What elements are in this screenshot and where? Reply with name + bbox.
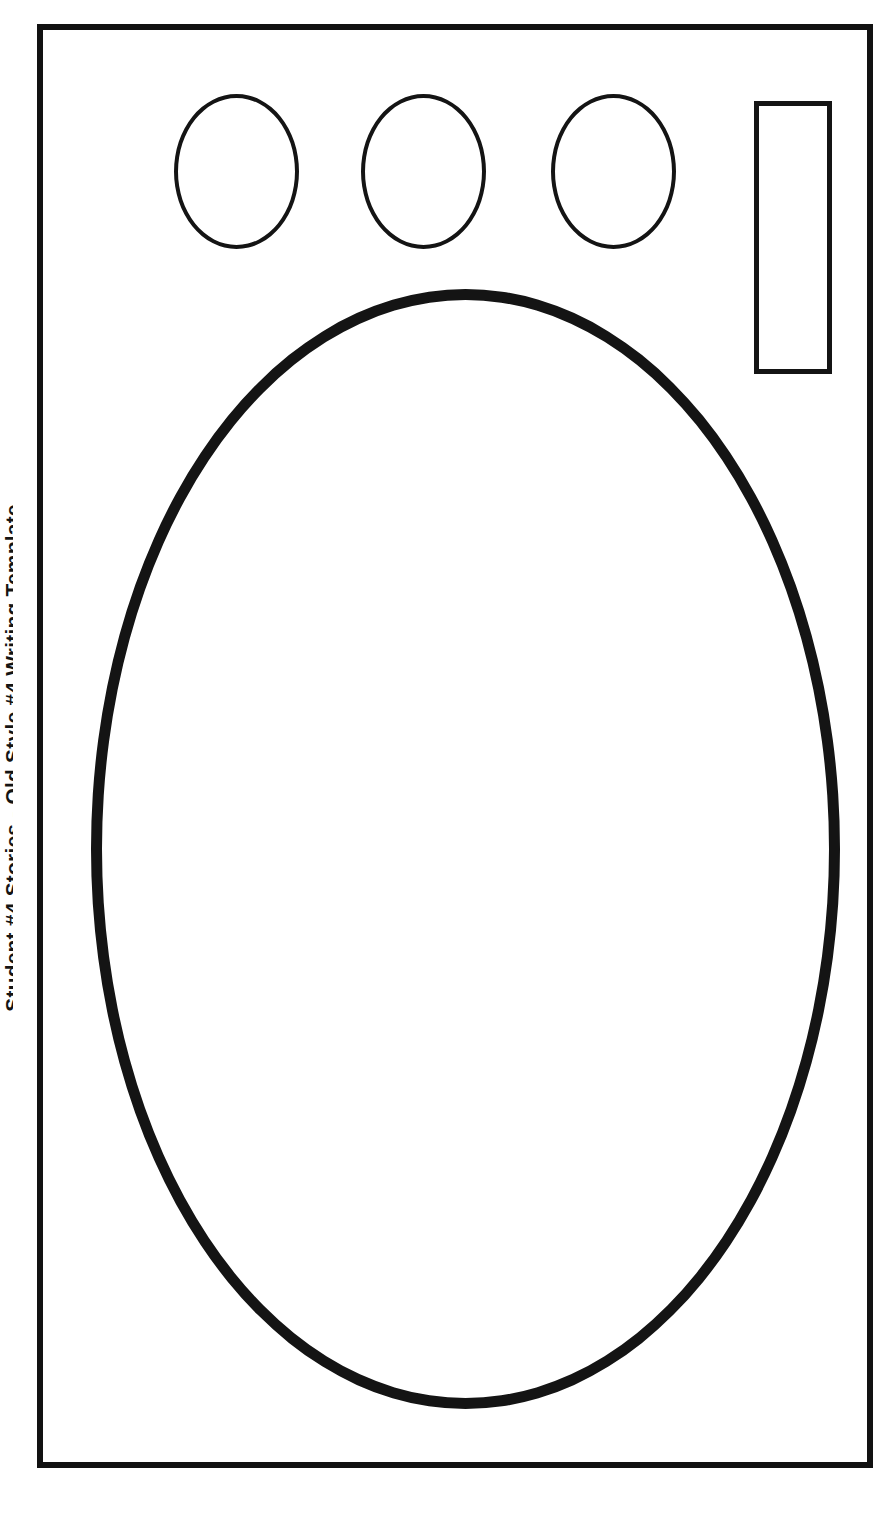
page-title-caption: Student #4 Stories - Old Style #4 Writin… xyxy=(0,1,13,1515)
small-ellipse-2[interactable] xyxy=(361,94,486,249)
writing-template-page: Student #4 Stories - Old Style #4 Writin… xyxy=(0,0,884,1515)
page-border xyxy=(37,24,873,1468)
vertical-rectangle-box[interactable] xyxy=(754,101,832,374)
small-ellipse-3[interactable] xyxy=(551,94,676,249)
large-drawing-ellipse[interactable] xyxy=(91,289,840,1409)
small-ellipse-1[interactable] xyxy=(174,94,299,249)
rotated-caption-clip: Student #4 Stories - Old Style #4 Writin… xyxy=(0,0,13,1515)
